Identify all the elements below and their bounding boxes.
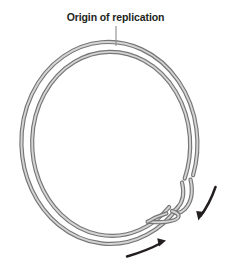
- figure-canvas: [0, 0, 231, 279]
- dna-strand-outer: [18, 39, 201, 247]
- dna-replication-figure: Origin of replication: [0, 0, 231, 279]
- dna-strand-inner: [29, 49, 193, 238]
- replication-arrow-right: [196, 187, 215, 221]
- origin-of-replication-label: Origin of replication: [0, 11, 231, 23]
